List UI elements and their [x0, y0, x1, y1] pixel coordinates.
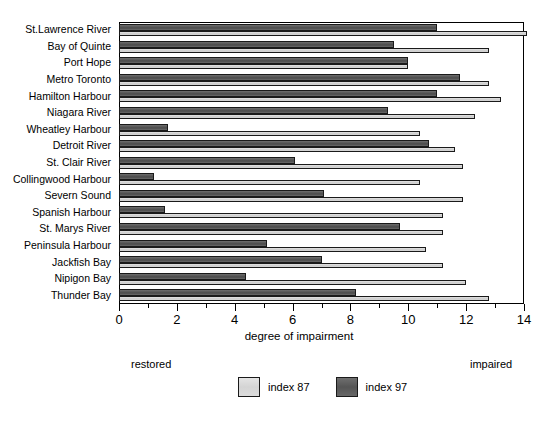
- y-axis-label: St. Clair River: [46, 157, 111, 168]
- bar-index-97: [119, 273, 246, 280]
- bar-index-87: [119, 114, 475, 119]
- bar-index-97: [119, 157, 295, 164]
- y-axis-label: Spanish Harbour: [32, 207, 111, 218]
- bar-index-97: [119, 190, 324, 197]
- y-axis-label: Severn Sound: [44, 190, 111, 201]
- legend-label-index-97: index 97: [366, 381, 408, 393]
- y-axis-label: Bay of Quinte: [47, 41, 111, 52]
- y-axis-label: Jackfish Bay: [52, 257, 111, 268]
- x-axis-tick-label: 2: [157, 312, 197, 327]
- y-axis-label: St. Marys River: [39, 223, 111, 234]
- bar-index-87: [119, 131, 420, 136]
- y-axis-label: Detroit River: [53, 140, 111, 151]
- x-axis-tick-label: 6: [273, 312, 313, 327]
- y-axis-label: Metro Toronto: [46, 74, 111, 85]
- bar-index-97: [119, 107, 388, 114]
- x-axis: 02468101214: [119, 304, 525, 305]
- bar-index-87: [119, 296, 489, 301]
- legend-swatch-index-97: [336, 377, 358, 397]
- x-axis-tick-label: 10: [388, 312, 428, 327]
- x-axis-minor-tick: [379, 304, 380, 308]
- bar-index-97: [119, 223, 400, 230]
- y-axis-label: Thunder Bay: [51, 290, 111, 301]
- bar-index-87: [119, 247, 426, 252]
- bar-index-87: [119, 164, 463, 169]
- x-axis-major-tick: [177, 304, 178, 311]
- y-axis-label: Collingwood Harbour: [13, 174, 111, 185]
- x-axis-major-tick: [466, 304, 467, 311]
- bar-index-87: [119, 48, 489, 53]
- y-axis-label: Niagara River: [47, 107, 111, 118]
- x-axis-major-tick: [235, 304, 236, 311]
- x-axis-title: degree of impairment: [0, 330, 552, 342]
- bar-index-97: [119, 206, 165, 213]
- bar-index-87: [119, 197, 463, 202]
- bar-index-97: [119, 140, 429, 147]
- bar-index-97: [119, 240, 267, 247]
- y-axis-labels: St.Lawrence RiverBay of QuintePort HopeM…: [0, 22, 115, 304]
- bar-index-87: [119, 64, 408, 69]
- legend-swatch-index-87: [238, 377, 260, 397]
- chart-legend: index 87 index 97: [238, 377, 407, 397]
- annotation-impaired: impaired: [470, 358, 512, 370]
- bars-layer: [119, 22, 539, 304]
- x-axis-tick-label: 0: [99, 312, 139, 327]
- y-axis-label: Hamilton Harbour: [29, 91, 111, 102]
- bar-index-87: [119, 147, 455, 152]
- y-axis-label: Wheatley Harbour: [26, 124, 111, 135]
- legend-label-index-87: index 87: [268, 381, 310, 393]
- x-axis-tick-label: 8: [330, 312, 370, 327]
- legend-item-index-97[interactable]: index 97: [336, 377, 408, 397]
- bar-index-97: [119, 24, 437, 31]
- bar-chart: St.Lawrence RiverBay of QuintePort HopeM…: [0, 0, 552, 424]
- x-axis-minor-tick: [148, 304, 149, 308]
- x-axis-major-tick: [293, 304, 294, 311]
- annotation-restored: restored: [131, 358, 171, 370]
- x-axis-major-tick: [350, 304, 351, 311]
- y-axis-label: Peninsula Harbour: [24, 240, 111, 251]
- y-axis-label: Port Hope: [64, 57, 111, 68]
- x-axis-major-tick: [524, 304, 525, 311]
- legend-item-index-87[interactable]: index 87: [238, 377, 310, 397]
- bar-index-87: [119, 213, 443, 218]
- bar-index-97: [119, 289, 356, 296]
- bar-index-87: [119, 31, 527, 36]
- bar-index-87: [119, 97, 501, 102]
- bar-index-87: [119, 81, 489, 86]
- bar-index-97: [119, 41, 394, 48]
- bar-index-97: [119, 57, 408, 64]
- bar-index-87: [119, 280, 466, 285]
- bar-index-97: [119, 90, 437, 97]
- x-axis-major-tick: [408, 304, 409, 311]
- bar-index-87: [119, 230, 443, 235]
- x-axis-tick-label: 4: [215, 312, 255, 327]
- bar-index-87: [119, 263, 443, 268]
- x-axis-minor-tick: [206, 304, 207, 308]
- x-axis-minor-tick: [495, 304, 496, 308]
- x-axis-minor-tick: [437, 304, 438, 308]
- x-axis-major-tick: [119, 304, 120, 311]
- y-axis-label: Nipigon Bay: [54, 273, 111, 284]
- x-axis-title-text: degree of impairment: [245, 330, 354, 342]
- x-axis-minor-tick: [322, 304, 323, 308]
- bar-index-97: [119, 256, 322, 263]
- bar-index-87: [119, 180, 420, 185]
- bar-index-97: [119, 74, 460, 81]
- x-axis-minor-tick: [264, 304, 265, 308]
- bar-index-97: [119, 173, 154, 180]
- x-axis-tick-label: 14: [504, 312, 544, 327]
- y-axis-label: St.Lawrence River: [25, 24, 111, 35]
- x-axis-tick-label: 12: [446, 312, 486, 327]
- bar-index-97: [119, 124, 168, 131]
